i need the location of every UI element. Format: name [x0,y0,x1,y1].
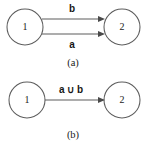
panel-b-caption: (b) [67,129,80,141]
edge-b-union: a ∪ b [45,84,105,103]
figure-root: 1 2 b a (a) 1 [0,0,149,146]
panel-a-caption: (a) [67,57,79,69]
edge-label: a [69,39,75,50]
state-label: 2 [120,21,125,32]
edge-label: a ∪ b [59,84,83,95]
edge-a-a: a [42,31,105,50]
arrow-head-icon [98,31,105,37]
edge-a-b: b [42,3,105,22]
state-label: 1 [25,94,30,105]
state-label: 1 [23,21,28,32]
node-b-1: 1 [9,82,45,118]
edge-label: b [69,3,75,14]
node-a-1: 1 [7,9,43,45]
arrow-head-icon [98,16,105,22]
panel-a: 1 2 b a (a) [7,3,140,69]
node-b-2: 2 [104,82,140,118]
panel-b: 1 2 a ∪ b (b) [9,82,140,141]
node-a-2: 2 [104,9,140,45]
state-label: 2 [120,94,125,105]
transition-diagram-canvas: 1 2 b a (a) 1 [0,0,149,146]
